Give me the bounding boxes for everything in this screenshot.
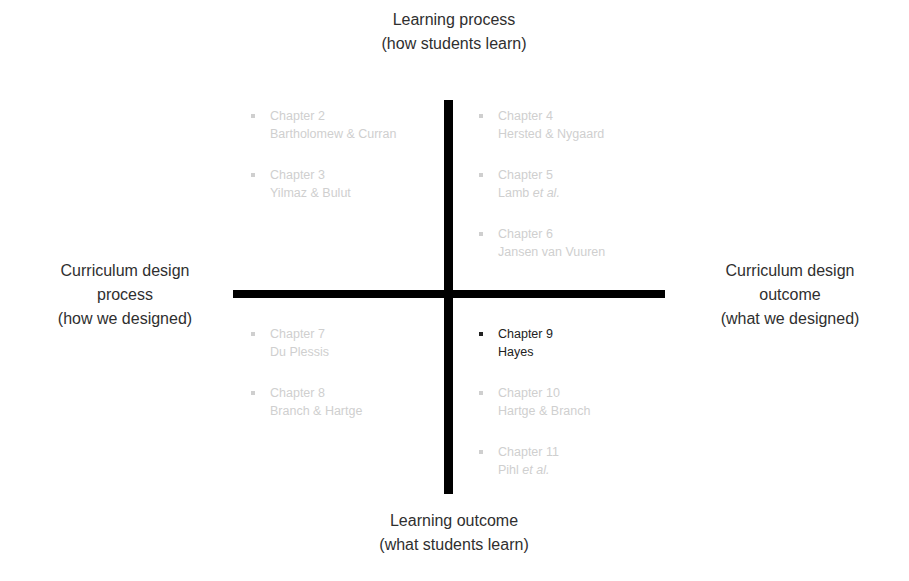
chapter-authors: Hayes — [498, 343, 590, 361]
chapter-item: Chapter 3 Yilmaz & Bulut — [248, 166, 396, 202]
axis-label-top-line2: (how students learn) — [354, 32, 554, 56]
chapter-number: Chapter 11 — [498, 443, 590, 461]
axis-label-bottom-line1: Learning outcome — [354, 509, 554, 533]
chapter-authors: Yilmaz & Bulut — [270, 184, 396, 202]
axis-label-right-line3: (what we designed) — [680, 307, 900, 331]
chapter-item-highlighted: Chapter 9 Hayes — [476, 325, 590, 361]
chapter-number: Chapter 9 — [498, 325, 590, 343]
chapter-item: Chapter 11 Pihl et al. — [476, 443, 590, 479]
axis-label-top: Learning process (how students learn) — [354, 8, 554, 56]
chapter-item: Chapter 6 Jansen van Vuuren — [476, 225, 605, 261]
chapter-number: Chapter 7 — [270, 325, 362, 343]
chapter-item: Chapter 10 Hartge & Branch — [476, 384, 590, 420]
chapter-authors: Lamb et al. — [498, 184, 605, 202]
bullet-icon — [479, 114, 483, 118]
bullet-icon — [251, 173, 255, 177]
chapter-item: Chapter 5 Lamb et al. — [476, 166, 605, 202]
chapter-item: Chapter 4 Hersted & Nygaard — [476, 107, 605, 143]
chapter-number: Chapter 4 — [498, 107, 605, 125]
chapter-authors: Hersted & Nygaard — [498, 125, 605, 143]
axis-label-left: Curriculum design process (how we design… — [20, 259, 230, 331]
chapter-authors: Du Plessis — [270, 343, 362, 361]
bullet-icon — [251, 332, 255, 336]
chapter-number: Chapter 2 — [270, 107, 396, 125]
axis-label-bottom-line2: (what students learn) — [354, 533, 554, 557]
axis-label-left-line2: process — [20, 283, 230, 307]
axis-label-bottom: Learning outcome (what students learn) — [354, 509, 554, 557]
axis-label-left-line3: (how we designed) — [20, 307, 230, 331]
horizontal-axis-line — [233, 290, 665, 298]
axis-label-right-line1: Curriculum design — [680, 259, 900, 283]
quadrant-bottom-right: Chapter 9 Hayes Chapter 10 Hartge & Bran… — [476, 325, 590, 502]
chapter-item: Chapter 2 Bartholomew & Curran — [248, 107, 396, 143]
chapter-authors: Jansen van Vuuren — [498, 243, 605, 261]
bullet-icon — [251, 114, 255, 118]
bullet-icon — [479, 173, 483, 177]
bullet-icon — [479, 232, 483, 236]
chapter-authors: Bartholomew & Curran — [270, 125, 396, 143]
axis-label-right-line2: outcome — [680, 283, 900, 307]
quadrant-top-right: Chapter 4 Hersted & Nygaard Chapter 5 La… — [476, 107, 605, 284]
chapter-number: Chapter 6 — [498, 225, 605, 243]
chapter-number: Chapter 3 — [270, 166, 396, 184]
chapter-authors: Branch & Hartge — [270, 402, 362, 420]
bullet-icon — [251, 391, 255, 395]
bullet-icon — [479, 332, 483, 336]
chapter-item: Chapter 7 Du Plessis — [248, 325, 362, 361]
axis-label-left-line1: Curriculum design — [20, 259, 230, 283]
chapter-authors: Pihl et al. — [498, 461, 590, 479]
quadrant-bottom-left: Chapter 7 Du Plessis Chapter 8 Branch & … — [248, 325, 362, 443]
bullet-icon — [479, 450, 483, 454]
chapter-number: Chapter 5 — [498, 166, 605, 184]
chapter-authors: Hartge & Branch — [498, 402, 590, 420]
axis-label-right: Curriculum design outcome (what we desig… — [680, 259, 900, 331]
chapter-item: Chapter 8 Branch & Hartge — [248, 384, 362, 420]
bullet-icon — [479, 391, 483, 395]
chapter-number: Chapter 10 — [498, 384, 590, 402]
quadrant-top-left: Chapter 2 Bartholomew & Curran Chapter 3… — [248, 107, 396, 225]
axis-label-top-line1: Learning process — [354, 8, 554, 32]
chapter-number: Chapter 8 — [270, 384, 362, 402]
